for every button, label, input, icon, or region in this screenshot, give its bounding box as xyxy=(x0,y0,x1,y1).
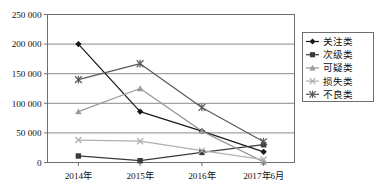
legend-label: 不良类 xyxy=(323,89,353,100)
y-axis-label: 50 000 xyxy=(16,128,42,138)
data-point-square xyxy=(310,52,315,57)
line-chart: 050 000100 000150 000200 000250 000 2014… xyxy=(0,0,380,191)
legend-label: 损失类 xyxy=(323,76,353,87)
x-axis-label: 2014年 xyxy=(65,170,92,181)
data-point-square xyxy=(76,153,81,158)
y-axis-label: 150 000 xyxy=(12,69,42,79)
y-axis-label: 200 000 xyxy=(12,39,42,49)
x-axis-label: 2016年 xyxy=(188,170,215,181)
y-axis-label: 250 000 xyxy=(12,10,42,20)
x-axis-label: 2015年 xyxy=(126,170,153,181)
legend-label: 次级类 xyxy=(323,49,353,60)
legend-label: 可疑类 xyxy=(323,62,353,73)
legend-label: 关注类 xyxy=(323,36,353,47)
chart-canvas: 050 000100 000150 000200 000250 000 2014… xyxy=(0,0,380,191)
x-axis-label: 2017年6月 xyxy=(243,170,284,181)
y-axis-label: 100 000 xyxy=(12,99,42,109)
y-axis-label: 0 xyxy=(37,158,42,168)
